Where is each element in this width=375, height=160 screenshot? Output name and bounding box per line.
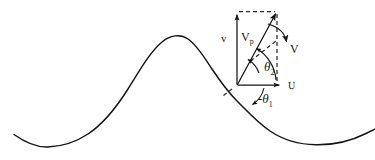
wave-surface-curve (14, 36, 375, 147)
figure-root: v Vp V U θ2 -θ1 (0, 0, 375, 160)
label-theta2-sub: 2 (270, 68, 274, 77)
dashed-inner-diagonal (251, 41, 277, 61)
label-theta1-sub: 1 (269, 100, 273, 109)
label-vp: Vp (241, 30, 254, 46)
label-v-cap: V (290, 42, 299, 56)
wave-vector-diagram: v Vp V U θ2 -θ1 (0, 0, 375, 160)
label-vp-sub: p (250, 37, 254, 46)
label-u-axis: U (288, 80, 296, 91)
label-v-small: v (221, 32, 227, 44)
label-vp-base: V (241, 30, 250, 44)
label-theta1: -θ1 (258, 91, 273, 109)
label-theta2: θ2 (264, 59, 274, 77)
vector-arrows (237, 14, 287, 85)
label-theta1-base: -θ (258, 91, 269, 106)
